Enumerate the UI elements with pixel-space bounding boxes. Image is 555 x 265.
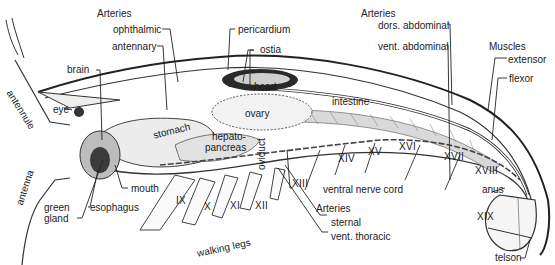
crayfish-anatomy-drawing — [0, 0, 555, 265]
arteries-group-label-bottom: Arteries — [316, 203, 350, 214]
segment-XIV-label: XIV — [338, 153, 355, 164]
segment-XII-label: XII — [255, 200, 268, 211]
ostia-label: ostia — [260, 44, 281, 55]
ophthalmic-artery-label: ophthalmic — [113, 24, 161, 35]
muscles-group-label: Muscles — [489, 41, 526, 52]
vent-abdominal-artery-label: vent. abdominal — [378, 41, 449, 52]
segment-XVIII-label: XVIII — [475, 165, 498, 176]
sternal-artery-label: sternal — [331, 217, 361, 228]
brain-label: brain — [67, 64, 89, 75]
ventral-nerve-cord-label: ventral nerve cord — [323, 184, 403, 195]
eye-shape — [74, 107, 84, 117]
arteries-group-label-top-left: Arteries — [97, 8, 131, 19]
eye-label: eye — [53, 104, 69, 115]
segment-X-label: X — [204, 201, 211, 212]
segment-XVII-label: XVII — [444, 151, 464, 162]
ovary-label: ovary — [245, 108, 269, 119]
dors-abdominal-artery-label: dors. abdominal — [378, 20, 449, 31]
heart-label: heart — [254, 81, 277, 92]
segment-XV-label: XV — [368, 146, 382, 157]
mouth-label: mouth — [131, 183, 159, 194]
pancreas-label: pancreas — [205, 142, 246, 153]
segment-XVI-label: XVI — [399, 141, 416, 152]
segment-XI-label: XI — [230, 200, 240, 211]
extensor-muscle-label: extensor — [508, 54, 546, 65]
telson-shape — [486, 195, 537, 251]
antennary-artery-label: antennary — [112, 41, 156, 52]
esophagus-label: esophagus — [90, 202, 139, 213]
intestine-label: intestine — [332, 96, 369, 107]
segment-XIII-label: XIII — [292, 178, 308, 189]
green-gland-label-line2: gland — [44, 213, 68, 224]
walking-legs-shapes — [140, 168, 285, 230]
telson-label: telson — [495, 252, 522, 263]
vent-thoracic-artery-label: vent. thoracic — [331, 231, 390, 242]
pericardium-label: pericardium — [238, 24, 290, 35]
hepato-label: hepato- — [212, 131, 246, 142]
oviduct-label: oviduct — [256, 138, 267, 170]
green-gland-label-line1: green — [44, 202, 70, 213]
segment-XIX-label: XIX — [477, 211, 494, 222]
segment-IX-label: IX — [176, 195, 186, 206]
anus-label: anus — [482, 184, 504, 195]
flexor-muscle-label: flexor — [509, 73, 533, 84]
arteries-group-label-top-right: Arteries — [361, 8, 395, 19]
